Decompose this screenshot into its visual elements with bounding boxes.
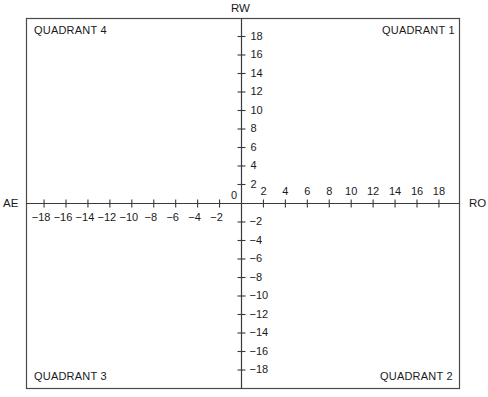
x-tick-label: 16 <box>411 185 423 197</box>
y-tick-label: −2 <box>250 215 263 227</box>
x-tick-label: −12 <box>98 211 117 223</box>
y-tick-label: −16 <box>250 345 269 357</box>
x-tick-label: 10 <box>345 185 357 197</box>
x-tick-label: 6 <box>304 185 310 197</box>
origin-label: 0 <box>231 189 237 201</box>
y-tick-label: 18 <box>251 30 263 42</box>
x-tick-label: 2 <box>260 185 266 197</box>
y-tick-label: 14 <box>251 67 263 79</box>
y-tick-label: −6 <box>250 252 263 264</box>
x-tick-label: −4 <box>188 211 201 223</box>
quadrant-4-label: QUADRANT 4 <box>34 24 107 36</box>
x-tick-label: 12 <box>367 185 379 197</box>
y-tick-label: 16 <box>251 48 263 60</box>
x-tick-label: −16 <box>54 211 73 223</box>
y-axis-label-rw: RW <box>231 2 250 14</box>
y-tick-label: −14 <box>250 326 269 338</box>
y-tick-label: 8 <box>251 122 257 134</box>
y-tick-label: −18 <box>250 363 269 375</box>
y-tick-label: 4 <box>251 159 257 171</box>
x-tick-label: 8 <box>326 185 332 197</box>
y-tick-label: −8 <box>250 271 263 283</box>
x-tick-label: −8 <box>144 211 157 223</box>
y-tick-label: 12 <box>251 85 263 97</box>
y-tick-label: −12 <box>250 308 269 320</box>
x-tick-label: 14 <box>389 185 401 197</box>
x-tick-label: −10 <box>119 211 138 223</box>
quadrant-2-label: QUADRANT 2 <box>380 370 453 382</box>
x-axis-label-ae: AE <box>3 197 18 209</box>
quadrant-3-label: QUADRANT 3 <box>34 370 107 382</box>
y-tick-label: −4 <box>250 234 263 246</box>
x-axis-label-ro: RO <box>469 197 486 209</box>
x-tick-label: −14 <box>76 211 95 223</box>
y-tick-label: 6 <box>251 141 257 153</box>
x-tick-label: −2 <box>210 211 223 223</box>
quadrant-1-label: QUADRANT 1 <box>382 24 455 36</box>
x-tick-label: 4 <box>282 185 288 197</box>
y-tick-label: 10 <box>251 104 263 116</box>
y-tick-label: 2 <box>251 178 257 190</box>
chart-axes <box>0 0 488 397</box>
y-tick-label: −10 <box>250 289 269 301</box>
x-tick-label: −18 <box>32 211 51 223</box>
x-tick-label: 18 <box>433 185 445 197</box>
x-tick-label: −6 <box>166 211 179 223</box>
quadrant-chart: RW RO AE 0 QUADRANT 4 QUADRANT 1 QUADRAN… <box>0 0 488 397</box>
